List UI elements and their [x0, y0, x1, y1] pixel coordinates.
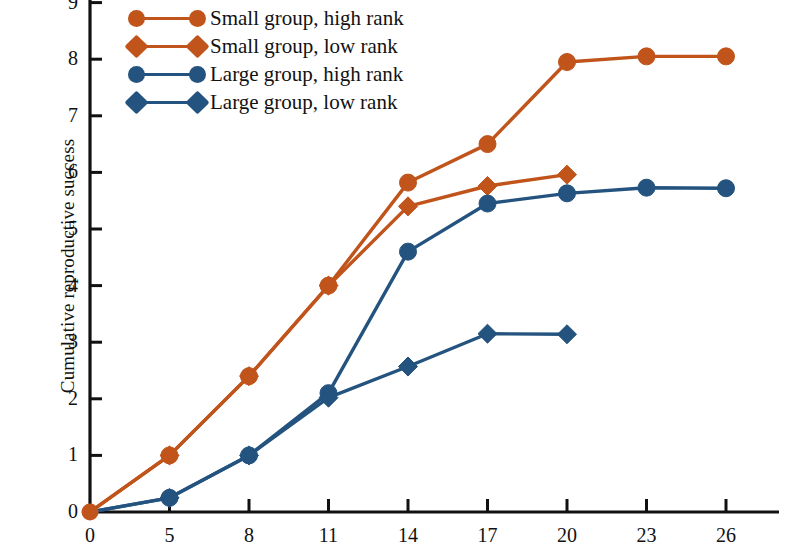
y-axis-tick-label: 5 [46, 218, 78, 238]
y-axis-tick-label: 7 [46, 105, 78, 125]
legend-marker-diamond-icon [185, 34, 209, 58]
origin-data-point [82, 504, 99, 521]
x-axis-tick-label: 8 [229, 525, 269, 545]
data-point-diamond [478, 324, 497, 343]
legend-marker-circle-icon [128, 66, 145, 83]
y-axis-tick-label: 3 [46, 331, 78, 351]
legend-item: Small group, high rank [128, 4, 404, 32]
x-axis-tick-label: 26 [706, 525, 746, 545]
legend-label: Small group, low rank [206, 36, 398, 57]
legend-marker-diamond-icon [124, 90, 148, 114]
series-0 [90, 48, 735, 512]
x-axis-tick-label: 20 [547, 525, 587, 545]
data-point-diamond [398, 357, 417, 376]
legend-marker-circle-icon [189, 66, 206, 83]
series-line [90, 175, 567, 512]
data-point-circle [400, 174, 417, 191]
legend-item: Small group, low rank [128, 32, 404, 60]
legend-marker-circle-icon [128, 10, 145, 27]
x-axis-tick-label: 0 [70, 525, 110, 545]
legend-label: Large group, low rank [206, 92, 397, 113]
y-axis-tick-label: 0 [46, 501, 78, 521]
y-axis-tick-label: 8 [46, 48, 78, 68]
legend-key-diamond-icon [128, 90, 206, 114]
legend-label: Large group, high rank [206, 64, 403, 85]
series-line [90, 56, 726, 512]
x-axis-tick-label: 11 [309, 525, 349, 545]
data-point-circle [559, 185, 576, 202]
data-point-circle [559, 54, 576, 71]
data-point-circle [638, 179, 655, 196]
data-point-circle [638, 48, 655, 65]
y-axis-tick-label: 2 [46, 388, 78, 408]
legend-marker-diamond-icon [124, 34, 148, 58]
data-point-circle [479, 195, 496, 212]
data-point-circle [400, 243, 417, 260]
series-1 [90, 165, 577, 512]
legend-item: Large group, low rank [128, 88, 404, 116]
y-axis-tick-label: 9 [46, 0, 78, 12]
data-point-circle [718, 48, 735, 65]
series-3 [90, 324, 577, 512]
data-point-circle [479, 136, 496, 153]
legend-key-circle-icon [128, 62, 206, 86]
legend-key-diamond-icon [128, 34, 206, 58]
x-axis-tick-label: 17 [468, 525, 508, 545]
series-line [90, 188, 726, 512]
data-point-diamond [557, 325, 576, 344]
y-axis-tick-label: 6 [46, 161, 78, 181]
chart-legend: Small group, high rankSmall group, low r… [128, 4, 404, 116]
cumulative-reproductive-success-chart: Cumulative reproductive success 01234567… [0, 0, 785, 545]
x-axis-tick-label: 14 [388, 525, 428, 545]
y-axis-tick-label: 1 [46, 444, 78, 464]
data-point-diamond [160, 488, 179, 507]
series-line [90, 334, 567, 512]
y-axis-tick-label: 4 [46, 275, 78, 295]
legend-label: Small group, high rank [206, 8, 404, 29]
x-axis-tick-label: 23 [627, 525, 667, 545]
legend-marker-circle-icon [189, 10, 206, 27]
data-point-diamond [557, 165, 576, 184]
legend-marker-diamond-icon [185, 90, 209, 114]
legend-item: Large group, high rank [128, 60, 404, 88]
data-point-circle [718, 180, 735, 197]
data-point-diamond [478, 176, 497, 195]
series-2 [90, 179, 735, 512]
legend-key-circle-icon [128, 6, 206, 30]
x-axis-tick-label: 5 [150, 525, 190, 545]
